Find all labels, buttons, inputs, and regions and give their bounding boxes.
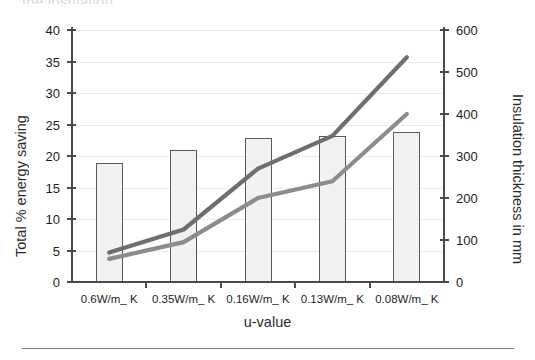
y-axis-right-tick-label: 0	[456, 276, 500, 289]
y-axis-left-line	[71, 27, 73, 283]
line-series	[72, 30, 444, 282]
x-axis-category-label: 0.08W/m_ K	[375, 293, 438, 305]
x-axis-category-label: 0.35W/m_ K	[152, 293, 215, 305]
y-axis-right-title: Insulation thickness in mm	[507, 50, 529, 308]
y-axis-left-tick-label: 20	[20, 150, 60, 163]
y-axis-left-tick-label: 15	[20, 182, 60, 195]
y-axis-left-tick-label: 35	[20, 56, 60, 69]
x-axis-category-label: 0.16W/m_ K	[226, 293, 289, 305]
x-axis-title: u-value	[0, 314, 535, 330]
y-axis-left-tick-label: 5	[20, 245, 60, 258]
y-axis-right-tick-label: 600	[456, 24, 500, 37]
y-axis-left-tick-label: 30	[20, 87, 60, 100]
x-axis-line	[71, 281, 445, 283]
y-axis-right-tick-label: 500	[456, 66, 500, 79]
y-axis-left-tick-label: 0	[20, 276, 60, 289]
y-axis-right-tick-label: 200	[456, 192, 500, 205]
bottom-divider	[22, 348, 514, 349]
y-axis-right-tick-label: 300	[456, 150, 500, 163]
chart-figure: Total % energy saving Insulation thickne…	[0, 12, 535, 337]
y-axis-right-tick-label: 100	[456, 234, 500, 247]
x-axis-category-label: 0.13W/m_ K	[301, 293, 364, 305]
cropped-header-text: the insulation	[22, 0, 113, 4]
y-axis-right-line	[443, 27, 445, 283]
y-axis-left-tick-label: 10	[20, 213, 60, 226]
y-axis-left-tick-label: 40	[20, 24, 60, 37]
plot-area: 0510152025303540 0100200300400500600	[72, 30, 444, 282]
x-axis-category-label: 0.6W/m_ K	[81, 293, 138, 305]
x-axis-category-labels: 0.6W/m_ K0.35W/m_ K0.16W/m_ K0.13W/m_ K0…	[60, 293, 460, 311]
y-axis-right-tick-label: 400	[456, 108, 500, 121]
y-axis-left-tick-label: 25	[20, 119, 60, 132]
